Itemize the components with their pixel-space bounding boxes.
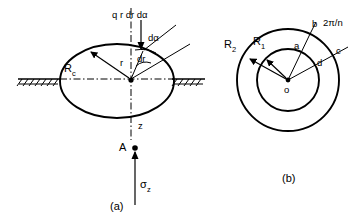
outer-radius-subscript: 2 — [232, 45, 236, 54]
point-A-label: A — [119, 141, 127, 153]
contact-radius-label-group: R c — [64, 62, 76, 78]
point-A-dot — [132, 145, 138, 151]
sector-line-dc — [288, 57, 330, 80]
contact-radius-arrow — [91, 52, 129, 78]
vertex-c-label: c — [336, 45, 341, 56]
sigma-z-label-group: σ z — [140, 178, 151, 194]
inner-radius-arrow — [267, 60, 286, 78]
ground-hatching-right — [172, 79, 203, 86]
inner-radius-label-group: R 1 — [253, 35, 265, 51]
outer-radius-arrow — [250, 59, 286, 79]
vertex-a-label: a — [294, 40, 300, 51]
loaded-area-ellipse — [60, 44, 174, 118]
panel-a-group: q r dr dα dα dr r R c z A σ z (a) — [17, 8, 205, 212]
outer-radius-label-group: R 2 — [224, 38, 236, 54]
contact-radius-subscript: c — [72, 69, 76, 78]
ground-hatching-left — [17, 79, 58, 86]
figure-container: q r dr dα dα dr r R c z A σ z (a) — [0, 0, 359, 224]
dr-label: dr — [137, 53, 145, 64]
depth-z-label: z — [138, 120, 143, 131]
contact-radius-label: R — [64, 62, 72, 74]
figure-canvas: q r dr dα dα dr r R c z A σ z (a) — [0, 0, 359, 224]
d-alpha-label: dα — [148, 32, 159, 43]
inner-radius-label: R — [253, 35, 261, 47]
radius-r-label: r — [120, 57, 123, 68]
caption-a: (a) — [110, 200, 123, 212]
load-element-label: q r dr dα — [112, 9, 148, 20]
sector-angle-label: 2π/n — [323, 17, 343, 28]
outer-radius-label: R — [224, 38, 232, 50]
caption-b: (b) — [282, 172, 295, 184]
panel-b-group: R 2 R 1 a b c d o 2π/n (b) — [224, 17, 348, 184]
center-o-label: o — [284, 84, 289, 95]
vertex-b-label: b — [312, 18, 317, 29]
sigma-z-label: σ — [140, 178, 147, 190]
vertex-d-label: d — [317, 57, 322, 68]
inner-radius-subscript: 1 — [261, 42, 265, 51]
sigma-z-subscript: z — [147, 185, 151, 194]
